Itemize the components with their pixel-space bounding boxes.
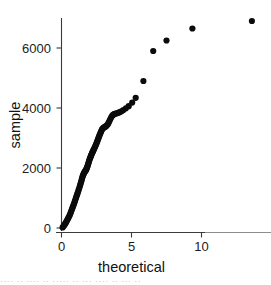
x-tick-label-0: 0 [58, 239, 65, 254]
y-axis-title: sample [7, 102, 23, 149]
x-axis-ticks [62, 233, 202, 238]
data-point-group [60, 18, 255, 231]
x-tick-label-10: 10 [194, 239, 208, 254]
data-point [133, 95, 139, 101]
cropped-caption-sliver: ···· ·· ···· ·· ····· ·· ··· ···· ·· ···… [0, 277, 271, 285]
y-tick-label-6000: 6000 [22, 41, 51, 56]
x-tick-label-5: 5 [128, 239, 135, 254]
data-point [140, 78, 146, 84]
scatter-plot-canvas: 0 2000 4000 6000 0 5 10 theoretical samp… [0, 0, 271, 285]
data-point [189, 25, 195, 31]
y-tick-label-0: 0 [44, 221, 51, 236]
y-tick-label-2000: 2000 [22, 161, 51, 176]
y-axis-ticks [57, 48, 62, 228]
data-point [150, 48, 156, 54]
data-point [163, 37, 169, 43]
y-tick-label-4000: 4000 [22, 101, 51, 116]
data-point [249, 18, 255, 24]
x-axis-title: theoretical [98, 259, 165, 275]
qq-plot-figure: 0 2000 4000 6000 0 5 10 theoretical samp… [0, 0, 271, 285]
